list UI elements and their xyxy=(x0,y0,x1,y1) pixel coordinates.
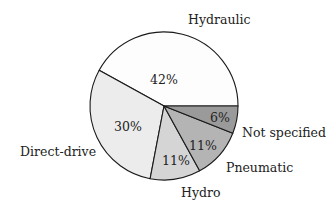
pct-label-hydro: 11% xyxy=(162,153,190,168)
pct-label-pneumatic: 11% xyxy=(189,138,217,153)
pct-label-direct-drive: 30% xyxy=(114,119,142,134)
category-label-not-specified: Not specified xyxy=(242,125,326,140)
pct-label-not-specified: 6% xyxy=(210,110,230,125)
pct-label-hydraulic: 42% xyxy=(150,72,178,87)
category-label-pneumatic: Pneumatic xyxy=(226,160,293,175)
category-label-hydro: Hydro xyxy=(181,185,220,200)
pie-chart: 42% 30% 11% 11% 6% Hydraulic Direct-driv… xyxy=(0,0,336,211)
category-label-hydraulic: Hydraulic xyxy=(188,12,250,27)
category-label-direct-drive: Direct-drive xyxy=(20,144,96,159)
